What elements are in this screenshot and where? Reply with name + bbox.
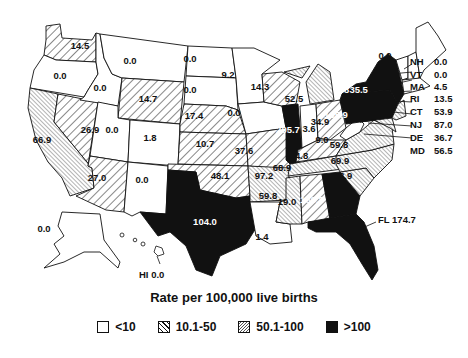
svg-text:36.7: 36.7 bbox=[434, 132, 453, 143]
legend-label: 10.1-50 bbox=[176, 320, 217, 334]
label-ok: 48.1 bbox=[211, 170, 230, 181]
svg-text:VT: VT bbox=[410, 69, 422, 80]
legend: <10 10.1-50 50.1-100 >100 bbox=[0, 320, 468, 334]
label-id: 0.0 bbox=[93, 82, 106, 93]
label-fl: FL 174.7 bbox=[378, 214, 416, 225]
label-nm: 0.0 bbox=[135, 174, 148, 185]
svg-text:87.0: 87.0 bbox=[434, 119, 453, 130]
svg-text:DE: DE bbox=[410, 132, 423, 143]
label-sc: 98.9 bbox=[334, 170, 353, 181]
label-wi: 14.3 bbox=[251, 81, 270, 92]
svg-text:53.9: 53.9 bbox=[434, 106, 453, 117]
label-va: 59.8 bbox=[330, 139, 349, 150]
label-wy: 14.7 bbox=[139, 93, 158, 104]
label-ny: 335.5 bbox=[344, 84, 368, 95]
swatch-black-icon bbox=[326, 321, 338, 333]
svg-text:NJ: NJ bbox=[410, 119, 422, 130]
label-ut: 0.0 bbox=[105, 124, 118, 135]
label-sd: 0.0 bbox=[183, 84, 196, 95]
legend-item-lt10: <10 bbox=[97, 320, 135, 334]
label-tn: 68.9 bbox=[273, 162, 292, 173]
label-ia: 0.0 bbox=[227, 107, 240, 118]
state-mt bbox=[100, 34, 188, 82]
svg-text:NH: NH bbox=[410, 56, 424, 67]
legend-label: 50.1-100 bbox=[256, 320, 303, 334]
label-mo: 37.6 bbox=[235, 145, 254, 156]
callout-ri: RI13.5 bbox=[410, 93, 453, 104]
label-ak: 0.0 bbox=[37, 223, 50, 234]
legend-title: Rate per 100,000 live births bbox=[0, 290, 468, 305]
label-mn: 9.2 bbox=[221, 69, 234, 80]
label-nc: 69.9 bbox=[331, 155, 350, 166]
svg-text:MA: MA bbox=[410, 81, 425, 92]
state-nm bbox=[124, 162, 168, 216]
legend-item-gt100: >100 bbox=[326, 320, 371, 334]
label-wv: 9.0 bbox=[315, 134, 328, 145]
label-ca: 66.9 bbox=[33, 134, 52, 145]
label-mi: 52.5 bbox=[285, 93, 304, 104]
label-co: 1.8 bbox=[143, 132, 156, 143]
label-me: 0.0 bbox=[378, 50, 391, 61]
swatch-dense-hatch-icon bbox=[238, 321, 250, 333]
swatch-sparse-hatch-icon bbox=[158, 321, 170, 333]
label-ms: 59.8 bbox=[259, 190, 278, 201]
label-az: 27.0 bbox=[88, 172, 107, 183]
label-nv: 26.9 bbox=[81, 124, 100, 135]
label-il: 205.7 bbox=[276, 124, 300, 135]
callout-md: MD56.5 bbox=[410, 145, 453, 156]
legend-label: <10 bbox=[115, 320, 135, 334]
label-wa: 14.5 bbox=[71, 40, 90, 51]
callout-ct: CT53.9 bbox=[410, 106, 453, 117]
svg-text:RI: RI bbox=[410, 93, 420, 104]
state-fl bbox=[308, 214, 378, 280]
svg-text:13.5: 13.5 bbox=[434, 93, 453, 104]
svg-text:0.0: 0.0 bbox=[434, 69, 447, 80]
state-co bbox=[128, 120, 180, 166]
label-ks: 10.7 bbox=[196, 138, 215, 149]
label-hi: HI 0.0 bbox=[139, 269, 164, 280]
label-ga: 159.8 bbox=[300, 194, 324, 205]
label-al: 19.0 bbox=[278, 196, 297, 207]
legend-item-10-50: 10.1-50 bbox=[158, 320, 217, 334]
state-hi bbox=[120, 233, 164, 256]
svg-text:MD: MD bbox=[410, 145, 425, 156]
callout-nj: NJ87.0 bbox=[410, 119, 453, 130]
svg-text:0.0: 0.0 bbox=[434, 56, 447, 67]
label-pa: 165.9 bbox=[324, 109, 348, 120]
label-mt: 0.0 bbox=[123, 55, 136, 66]
label-nd: 0.0 bbox=[183, 53, 196, 64]
state-ak bbox=[44, 212, 120, 268]
legend-label: >100 bbox=[344, 320, 371, 334]
legend-item-50-100: 50.1-100 bbox=[238, 320, 303, 334]
label-ar: 97.2 bbox=[255, 170, 274, 181]
callout-de: DE36.7 bbox=[410, 132, 453, 143]
label-la: 1.4 bbox=[255, 231, 269, 242]
svg-text:4.5: 4.5 bbox=[434, 81, 448, 92]
svg-text:CT: CT bbox=[410, 106, 423, 117]
callout-vt: VT0.0 bbox=[410, 69, 447, 80]
swatch-white-icon bbox=[97, 321, 109, 333]
label-tx: 104.0 bbox=[193, 216, 217, 227]
svg-text:56.5: 56.5 bbox=[434, 145, 453, 156]
label-ne: 17.4 bbox=[185, 110, 204, 121]
label-or: 0.0 bbox=[53, 70, 66, 81]
label-ky: 14.8 bbox=[290, 150, 309, 161]
